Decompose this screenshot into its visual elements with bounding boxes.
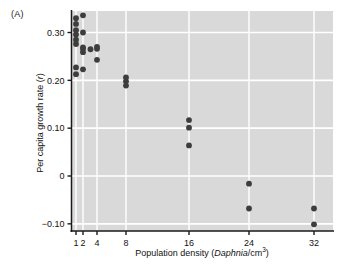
x-tick-label: 1 [73,238,78,248]
y-axis-label-pre: Per capita growth rate ( [35,79,45,173]
x-axis-label-pre: Population density ( [135,248,214,258]
y-tick-label: 0.30 [47,28,65,38]
y-tick-label: 0 [59,171,64,181]
data-point [73,21,79,27]
data-point [186,125,192,131]
y-axis-label: Per capita growth rate (r) [35,23,45,223]
data-point [88,46,94,52]
y-axis-label-post: ) [35,73,45,76]
data-point [80,66,86,72]
data-point [73,65,79,71]
plot-background [72,11,334,231]
x-tick-labels: 1248162432 [73,238,319,248]
data-point [80,30,86,36]
data-point [80,49,86,55]
data-point [246,181,252,187]
data-point [73,32,79,38]
data-point [94,46,100,52]
data-point [73,15,79,21]
x-tick-label: 32 [309,238,319,248]
data-point [94,57,100,63]
data-point [73,71,79,77]
scatter-plot: 0.300.200.100−0.10 1248162432 [0,0,342,268]
x-axis-label: Population density (Daphnia/cm3) [71,248,333,258]
data-point [186,117,192,123]
data-point [80,12,86,18]
y-axis-label-italic: r [35,76,45,79]
data-point [73,41,79,47]
panel-label: (A) [11,9,24,19]
y-tick-label: 0.20 [47,76,65,86]
plot-area [72,11,334,231]
y-tick-label: 0.10 [47,123,65,133]
data-point [123,83,129,89]
y-tick-labels: 0.300.200.100−0.10 [42,28,65,229]
data-point [311,206,317,212]
x-tick-label: 2 [80,238,85,248]
figure-panel-a: (A) 0.300.200.100−0.10 1248162432 Popula… [0,0,342,268]
x-tick-label: 8 [123,238,128,248]
data-point [246,206,252,212]
x-axis-label-italic: Daphnia [214,248,248,258]
x-axis-label-post: /cm [248,248,263,258]
x-axis-label-tail: ) [266,248,269,258]
data-point [311,221,317,227]
y-tick-label: −0.10 [42,219,65,229]
data-point [186,142,192,148]
x-tick-label: 16 [184,238,194,248]
x-tick-label: 4 [94,238,99,248]
x-tick-label: 24 [244,238,254,248]
